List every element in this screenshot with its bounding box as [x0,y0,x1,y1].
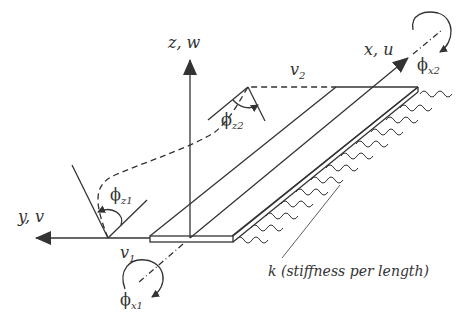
beam-edge-left [150,87,336,236]
phi-x2-arc [413,12,451,52]
beam-side-top [233,87,418,236]
phi-x2-label: ϕx2 [417,55,440,76]
beam-diagram: z, w y, v x, u v1 v2 ϕz1 ϕz2 ϕx1 ϕx2 k (… [0,0,470,316]
foundation-springs [236,91,452,243]
beam-side-bottom [233,92,418,242]
v2-label: v2 [290,60,305,81]
phi-z2-label: ϕz2 [221,110,244,131]
phi-z1-arc [98,210,122,225]
z-axis-label: z, w [167,33,201,52]
x-axis [190,58,408,238]
x-axis-extension [413,30,442,54]
y-axis-label: y, v [17,207,44,226]
phi-z1-label: ϕz1 [110,185,133,206]
x-axis-label: x, u [364,40,394,59]
tangent-z1 [72,165,108,238]
foundation-label: k (stiffness per length) [268,263,429,279]
phi-x1-label: ϕx1 [120,290,143,311]
tangent-z2 [248,87,265,121]
x-axis-extension-lower [138,244,183,283]
v1-label: v1 [120,243,135,264]
